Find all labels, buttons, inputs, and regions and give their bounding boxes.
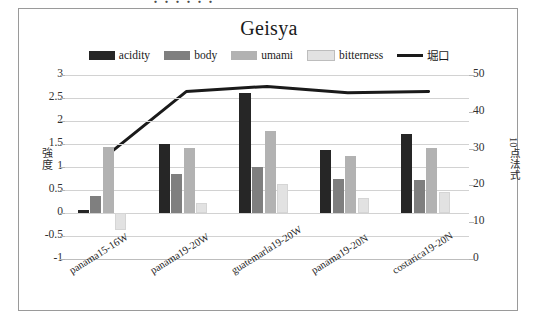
- tick-mark-right: [469, 222, 474, 223]
- bar-bitterness: [196, 203, 207, 213]
- tick-mark-left: [60, 167, 65, 168]
- bar-group: [320, 75, 370, 259]
- tick-mark-left: [60, 259, 65, 260]
- bar-umami: [184, 148, 195, 213]
- legend-item-4: bitterness: [307, 49, 383, 61]
- tick-mark-right: [469, 75, 474, 76]
- chart-container: Geisya aciditybodyumamibitterness堀口 強度 1…: [18, 8, 518, 311]
- legend-swatch-icon: [164, 51, 190, 60]
- bar-acidity: [401, 134, 412, 213]
- bar-body: [333, 179, 344, 213]
- y-tick-right: 10: [473, 214, 513, 226]
- bar-acidity: [159, 144, 170, 213]
- bar-umami: [265, 131, 276, 213]
- bar-bitterness: [439, 192, 450, 213]
- bar-umami: [103, 147, 114, 213]
- plot-area: 32.521.510.50-0.5-150403020100panama15-1…: [65, 75, 469, 259]
- legend-item-5: 堀口: [397, 47, 449, 63]
- tick-mark-right: [469, 259, 474, 260]
- bar-acidity: [239, 93, 250, 213]
- bar-group: [401, 75, 451, 259]
- fragment-text: ・・・・・・: [150, 0, 216, 7]
- bar-acidity: [320, 150, 331, 213]
- legend-label: umami: [261, 49, 293, 61]
- y-tick-left: 2.5: [23, 90, 63, 102]
- legend-item-2: body: [164, 49, 217, 61]
- bar-group: [159, 75, 209, 259]
- tick-mark-left: [60, 144, 65, 145]
- tick-mark-left: [60, 75, 65, 76]
- bar-bitterness: [358, 198, 369, 213]
- y-tick-left: 3: [23, 67, 63, 79]
- y-tick-right: 0: [473, 251, 513, 263]
- tick-mark-left: [60, 236, 65, 237]
- bar-acidity: [78, 210, 89, 213]
- legend-label: acidity: [119, 49, 150, 61]
- tick-mark-left: [60, 121, 65, 122]
- tick-mark-left: [60, 190, 65, 191]
- legend-item-1: acidity: [89, 49, 150, 61]
- bar-group: [78, 75, 128, 259]
- chart-title: Geisya: [19, 17, 519, 40]
- bar-body: [414, 180, 425, 213]
- legend-line-icon: [397, 54, 423, 57]
- tick-mark-right: [469, 185, 474, 186]
- y-tick-right: 20: [473, 177, 513, 189]
- y-tick-left: 0: [23, 205, 63, 217]
- bar-umami: [345, 156, 356, 214]
- cropped-page-fragment: ・・・・・・: [0, 0, 538, 7]
- legend-label: bitterness: [339, 49, 383, 61]
- y-tick-left: -1: [23, 251, 63, 263]
- legend-item-3: umami: [231, 49, 293, 61]
- chart-legend: aciditybodyumamibitterness堀口: [19, 47, 519, 63]
- tick-mark-left: [60, 213, 65, 214]
- bar-bitterness: [115, 213, 126, 230]
- y-tick-left: -0.5: [23, 228, 63, 240]
- legend-swatch-icon: [89, 51, 115, 60]
- bar-bitterness: [277, 184, 288, 213]
- legend-label: body: [194, 49, 217, 61]
- tick-mark-left: [60, 98, 65, 99]
- tick-mark-right: [469, 112, 474, 113]
- y-tick-left: 2: [23, 113, 63, 125]
- y-tick-left: 1.5: [23, 136, 63, 148]
- legend-label: 堀口: [427, 47, 449, 63]
- tick-mark-right: [469, 149, 474, 150]
- bar-body: [171, 174, 182, 213]
- y-tick-right: 50: [473, 67, 513, 79]
- y-tick-left: 1: [23, 159, 63, 171]
- bar-umami: [426, 148, 437, 213]
- y-tick-left: 0.5: [23, 182, 63, 194]
- bar-group: [239, 75, 289, 259]
- y-tick-right: 40: [473, 104, 513, 116]
- legend-swatch-icon: [307, 50, 335, 61]
- bar-body: [252, 167, 263, 213]
- legend-swatch-icon: [231, 51, 257, 60]
- y-tick-right: 30: [473, 141, 513, 153]
- bar-body: [90, 196, 101, 213]
